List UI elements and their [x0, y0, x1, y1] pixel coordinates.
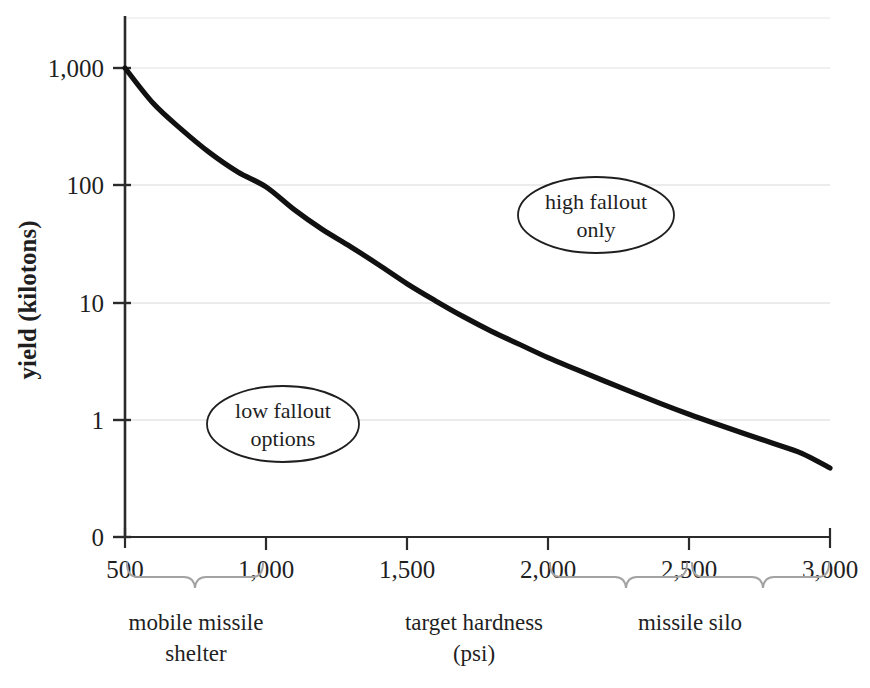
annotation-low-fallout-options: low fallout options — [207, 386, 359, 462]
annotation-low-fallout-line1: low fallout — [235, 398, 331, 423]
y-tick-label-100: 100 — [67, 172, 105, 199]
x-tick-label-1000: 1,000 — [238, 556, 294, 583]
bracket-label-mobile-missile-shelter-line2: shelter — [165, 641, 227, 666]
figure-container: 1,000 100 10 1 0 yield (kilotons) 500 1,… — [0, 0, 870, 688]
annotation-high-fallout-only: high fallout only — [518, 177, 674, 253]
x-axis-title-line1: target hardness — [405, 610, 543, 635]
bracket-label-mobile-missile-shelter-line1: mobile missile — [129, 610, 264, 635]
y-tick-label-1000: 1,000 — [48, 55, 104, 82]
x-tick-label-1500: 1,500 — [379, 556, 435, 583]
annotation-high-fallout-line1: high fallout — [545, 189, 647, 214]
yield-vs-target-hardness-chart: 1,000 100 10 1 0 yield (kilotons) 500 1,… — [0, 0, 870, 688]
annotation-high-fallout-line2: only — [576, 217, 615, 242]
x-tick-label-2500: 2,500 — [661, 556, 717, 583]
x-tick-label-2000: 2,000 — [520, 556, 576, 583]
y-tick-label-0: 0 — [92, 524, 105, 551]
x-tick-label-500: 500 — [106, 556, 144, 583]
y-axis-title: yield (kilotons) — [14, 220, 42, 379]
x-tick-label-3000: 3,000 — [802, 556, 858, 583]
chart-background — [0, 0, 870, 688]
y-tick-label-10: 10 — [79, 290, 104, 317]
x-axis-title-line2: (psi) — [453, 641, 495, 666]
bracket-label-missile-silo: missile silo — [638, 610, 742, 635]
y-tick-label-1: 1 — [92, 407, 105, 434]
annotation-low-fallout-line2: options — [251, 426, 316, 451]
